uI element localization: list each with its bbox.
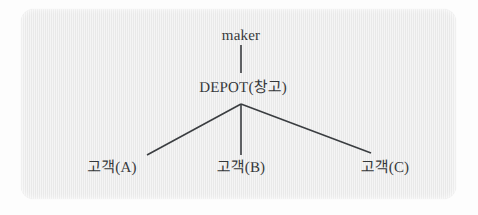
node-maker: maker xyxy=(222,28,260,45)
edge-depot-customer-a xyxy=(147,104,241,155)
diagram-page: maker DEPOT(창고) 고객(A) 고객(B) 고객(C) xyxy=(0,0,478,215)
node-customer-a: 고객(A) xyxy=(87,156,136,177)
node-depot: DEPOT(창고) xyxy=(199,76,287,97)
node-customer-b: 고객(B) xyxy=(217,156,266,177)
node-customer-c: 고객(C) xyxy=(361,156,410,177)
edge-depot-customer-c xyxy=(241,104,371,153)
